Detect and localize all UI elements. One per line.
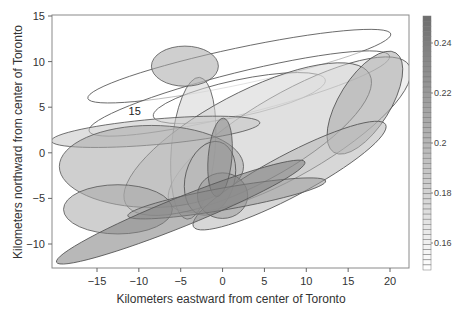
colorbar-swatch [423,245,431,250]
colorbar-swatch [423,224,431,229]
colorbar-swatch [423,265,431,270]
colorbar-swatch [423,87,431,92]
colorbar-swatch [423,234,431,239]
x-tick-label: −15 [88,275,107,287]
colorbar-swatch [423,148,431,153]
colorbar-swatch [423,133,431,138]
colorbar-swatch [423,77,431,82]
y-tick-label: −10 [26,238,45,250]
x-axis-title: Kilometers eastward from center of Toron… [116,292,346,306]
colorbar-tick-label: 0.2 [434,138,447,148]
y-axis-title: Kilometers northward from center of Toro… [11,25,25,259]
colorbar-swatch [423,26,431,31]
colorbar-swatch [423,82,431,87]
y-tick-label: 10 [33,56,45,68]
colorbar-swatch [423,67,431,72]
colorbar-swatch [423,102,431,107]
colorbar-swatch [423,21,431,26]
x-tick-label: 20 [384,275,396,287]
x-tick-label: 0 [220,275,226,287]
colorbar-swatch [423,153,431,158]
colorbar-swatch [423,113,431,118]
colorbar-swatch [423,173,431,178]
colorbar-swatch [423,194,431,199]
x-tick-label: −5 [174,275,187,287]
colorbar-swatch [423,128,431,133]
x-axis: −15−10−505101520 [88,268,396,287]
y-tick-label: −5 [32,192,45,204]
colorbar-swatch [423,255,431,260]
colorbar-tick-label: 0.24 [434,38,452,48]
colorbar-swatch [423,260,431,265]
colorbar-swatch [423,107,431,112]
colorbar-swatch [423,250,431,255]
colorbar-swatch [423,118,431,123]
colorbar-swatch [423,16,431,21]
colorbar-swatch [423,46,431,51]
colorbar-swatch [423,219,431,224]
y-tick-label: 15 [33,10,45,22]
colorbar-swatch [423,158,431,163]
colorbar-swatch [423,31,431,36]
colorbar-swatch [423,240,431,245]
colorbar-swatch [423,143,431,148]
y-tick-label: 5 [39,101,45,113]
y-axis: −10−5051015 [26,10,52,250]
colorbar-swatch [423,138,431,143]
colorbar-swatch [423,62,431,67]
uncertainty-ellipse [151,46,218,86]
y-tick-label: 0 [39,147,45,159]
chart: −15−10−505101520 −10−5051015 15 Kilomete… [0,0,462,314]
colorbar-swatch [423,179,431,184]
x-tick-label: 10 [300,275,312,287]
x-tick-label: 15 [342,275,354,287]
colorbar: 0.160.180.20.220.24 [423,16,452,270]
colorbar-swatch [423,168,431,173]
colorbar-swatch [423,41,431,46]
colorbar-swatch [423,204,431,209]
colorbar-swatch [423,123,431,128]
colorbar-swatch [423,72,431,77]
x-tick-label: −10 [130,275,149,287]
colorbar-swatch [423,189,431,194]
colorbar-tick-label: 0.18 [434,188,452,198]
ellipse-layer [50,16,429,276]
colorbar-swatch [423,163,431,168]
colorbar-swatch [423,199,431,204]
colorbar-swatch [423,52,431,57]
colorbar-swatch [423,184,431,189]
colorbar-swatch [423,97,431,102]
x-tick-label: 5 [261,275,267,287]
colorbar-tick-label: 0.22 [434,88,452,98]
colorbar-swatch [423,209,431,214]
colorbar-swatch [423,57,431,62]
colorbar-swatch [423,92,431,97]
colorbar-swatch [423,36,431,41]
colorbar-swatch [423,214,431,219]
colorbar-tick-label: 0.16 [434,238,452,248]
contour-annotation: 15 [129,105,141,117]
colorbar-swatch [423,229,431,234]
